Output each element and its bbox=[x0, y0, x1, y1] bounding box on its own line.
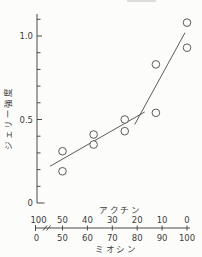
chart-canvas: ジェリー強度 アクチン ミオシン 00.51.01000505040603070… bbox=[0, 0, 202, 257]
myosin-tick-label: 60 bbox=[82, 233, 93, 243]
trend-line bbox=[50, 112, 145, 166]
data-point bbox=[121, 116, 129, 124]
trend-line bbox=[135, 33, 185, 125]
data-point bbox=[152, 109, 160, 117]
y-tick-label: 1.0 bbox=[19, 31, 33, 41]
x-axis-top-title: アクチン bbox=[99, 205, 141, 215]
data-point bbox=[59, 167, 67, 175]
data-point bbox=[59, 147, 67, 155]
y-tick-label: 0 bbox=[28, 198, 33, 208]
actin-tick-label: 40 bbox=[82, 215, 93, 225]
myosin-tick-label: 90 bbox=[157, 233, 168, 243]
data-point bbox=[183, 44, 191, 52]
myosin-tick-label: 50 bbox=[57, 233, 68, 243]
actin-tick-label: 50 bbox=[57, 215, 68, 225]
y-axis-title: ジェリー強度 bbox=[3, 87, 13, 150]
actin-tick-label: 100 bbox=[30, 215, 46, 225]
x-axis-bottom-title: ミオシン bbox=[95, 244, 137, 254]
myosin-tick-label: 100 bbox=[179, 233, 195, 243]
actin-tick-label: 10 bbox=[157, 215, 168, 225]
actin-tick-label: 0 bbox=[184, 215, 189, 225]
y-tick-label: 0.5 bbox=[19, 115, 33, 125]
myosin-tick-label: 0 bbox=[34, 233, 39, 243]
data-point bbox=[183, 19, 191, 27]
scatter-plot-figure: ジェリー強度 アクチン ミオシン 00.51.01000505040603070… bbox=[0, 0, 202, 257]
myosin-tick-label: 80 bbox=[132, 233, 143, 243]
data-point bbox=[90, 141, 98, 149]
data-point bbox=[152, 61, 160, 69]
actin-tick-label: 30 bbox=[107, 215, 118, 225]
actin-tick-label: 20 bbox=[132, 215, 143, 225]
data-point bbox=[90, 131, 98, 139]
myosin-tick-label: 70 bbox=[107, 233, 118, 243]
data-point bbox=[121, 127, 129, 135]
